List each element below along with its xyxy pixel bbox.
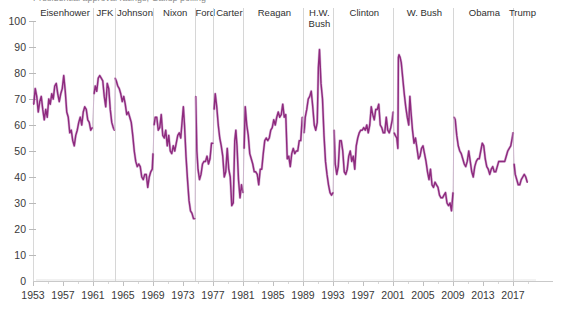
x-minor-tick <box>318 282 319 284</box>
x-minor-tick <box>498 282 499 284</box>
y-tick-mark <box>29 151 36 152</box>
chart-root: Presidential approval ratings, Gallup po… <box>0 0 565 309</box>
series-halo-reagan <box>244 104 302 185</box>
x-tick-mark <box>123 282 124 286</box>
x-tick-mark <box>393 282 394 286</box>
president-label-trump: Trump <box>493 8 551 19</box>
x-tick-mark <box>303 282 304 286</box>
y-tick-mark <box>29 177 36 178</box>
y-tick-mark <box>29 47 36 48</box>
chart-title-sliver: Presidential approval ratings, Gallup po… <box>33 0 533 3</box>
y-tick-label: 70 <box>0 94 26 105</box>
approval-line-series <box>0 0 565 309</box>
x-tick-label: 1965 <box>111 290 134 301</box>
series-line-trump <box>514 164 527 185</box>
series-halo-clinton <box>334 104 393 174</box>
president-divider <box>93 8 94 281</box>
x-tick-label: 1989 <box>291 290 314 301</box>
series-halo-ford <box>196 96 213 179</box>
x-tick-label: 1977 <box>201 290 224 301</box>
series-halo-carter <box>214 94 243 206</box>
x-tick-mark <box>183 282 184 286</box>
y-tick-mark <box>29 73 36 74</box>
series-halo-wbush <box>394 55 453 211</box>
y-tick-label: 30 <box>0 198 26 209</box>
x-minor-tick <box>378 282 379 284</box>
series-line-carter <box>214 94 243 206</box>
president-divider <box>393 8 394 281</box>
x-minor-tick <box>438 282 439 284</box>
y-tick-label: 90 <box>0 42 26 53</box>
x-tick-mark <box>333 282 334 286</box>
x-minor-tick <box>48 282 49 284</box>
series-line-obama <box>454 117 513 177</box>
y-tick-label: 40 <box>0 172 26 183</box>
series-halo-hwbush <box>304 50 333 196</box>
president-divider <box>333 8 334 281</box>
series-line-ford <box>196 96 213 179</box>
y-tick-mark <box>29 229 36 230</box>
x-tick-mark <box>213 282 214 286</box>
president-label-clinton: Clinton <box>335 8 393 19</box>
x-tick-label: 1985 <box>261 290 284 301</box>
x-minor-tick <box>408 282 409 284</box>
x-tick-label: 1973 <box>171 290 194 301</box>
y-tick-label: 80 <box>0 68 26 79</box>
x-tick-label: 2009 <box>441 290 464 301</box>
x-tick-label: 2017 <box>501 290 524 301</box>
x-minor-tick <box>78 282 79 284</box>
series-halo-eisenhower <box>34 76 93 146</box>
president-label-wbush: W. Bush <box>395 8 453 19</box>
x-minor-tick <box>198 282 199 284</box>
x-tick-mark <box>483 282 484 286</box>
y-tick-label: 20 <box>0 224 26 235</box>
y-tick-label: 60 <box>0 120 26 131</box>
x-minor-tick <box>228 282 229 284</box>
x-minor-tick <box>288 282 289 284</box>
x-minor-tick <box>468 282 469 284</box>
x-tick-mark <box>363 282 364 286</box>
x-minor-tick <box>348 282 349 284</box>
x-minor-tick <box>258 282 259 284</box>
x-tick-mark <box>513 282 514 286</box>
x-tick-label: 2013 <box>471 290 494 301</box>
y-tick-mark <box>29 21 36 22</box>
y-tick-label: 50 <box>0 146 26 157</box>
series-halo-nixon <box>154 107 195 219</box>
y-tick-label: 0 <box>0 276 26 287</box>
y-tick-label: 10 <box>0 250 26 261</box>
y-tick-mark <box>29 99 36 100</box>
x-tick-label: 1969 <box>141 290 164 301</box>
x-tick-label: 1957 <box>51 290 74 301</box>
x-tick-mark <box>423 282 424 286</box>
x-tick-label: 1981 <box>231 290 254 301</box>
president-divider <box>513 8 514 281</box>
x-tick-mark <box>63 282 64 286</box>
series-halo-obama <box>454 117 513 177</box>
y-tick-mark <box>29 203 36 204</box>
series-halo-trump <box>514 164 527 185</box>
series-line-nixon <box>154 107 195 219</box>
series-halo-johnson <box>115 78 153 187</box>
president-divider <box>243 8 244 281</box>
president-divider <box>115 8 116 281</box>
series-line-hwbush <box>304 50 333 196</box>
president-divider <box>153 8 154 281</box>
x-minor-tick <box>528 282 529 284</box>
x-tick-label: 1961 <box>81 290 104 301</box>
series-line-johnson <box>115 78 153 187</box>
series-line-wbush <box>394 55 453 211</box>
series-line-clinton <box>334 104 393 174</box>
president-divider <box>453 8 454 281</box>
y-tick-mark <box>29 255 36 256</box>
x-tick-mark <box>273 282 274 286</box>
x-tick-mark <box>93 282 94 286</box>
series-halo-jfk <box>94 76 114 131</box>
x-tick-label: 1953 <box>21 290 44 301</box>
president-divider <box>303 8 304 281</box>
series-line-jfk <box>94 76 114 131</box>
x-tick-label: 2001 <box>381 290 404 301</box>
x-tick-mark <box>33 282 34 286</box>
baseline-shadow <box>36 279 536 281</box>
x-tick-mark <box>243 282 244 286</box>
